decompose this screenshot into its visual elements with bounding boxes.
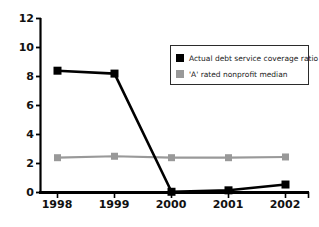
series-line-actual	[58, 71, 286, 192]
legend-item-actual: Actual debt service coverage ratio	[176, 50, 303, 66]
legend-swatch-actual-icon	[176, 54, 184, 62]
x-tick-label: 2001	[204, 198, 252, 211]
x-tick-label: 2002	[261, 198, 309, 211]
legend-swatch-median-icon	[176, 70, 184, 78]
data-point-marker	[282, 181, 290, 189]
data-point-marker	[111, 153, 118, 160]
data-point-marker	[168, 154, 175, 161]
x-tick-label: 1998	[33, 198, 81, 211]
data-point-marker	[282, 153, 289, 160]
legend-label-actual: Actual debt service coverage ratio	[189, 54, 318, 63]
data-point-marker	[168, 188, 176, 196]
line-chart: 12 10 8 6 4 2 0	[0, 0, 319, 227]
series-markers-actual	[54, 67, 290, 196]
data-point-marker	[54, 67, 62, 75]
legend-item-median: 'A' rated nonprofit median	[176, 66, 303, 82]
chart-legend: Actual debt service coverage ratio 'A' r…	[170, 45, 309, 85]
data-point-marker	[225, 186, 233, 194]
data-point-marker	[111, 70, 119, 78]
x-tick-label: 2000	[147, 198, 195, 211]
plot-canvas	[0, 0, 319, 227]
legend-label-median: 'A' rated nonprofit median	[189, 70, 288, 79]
data-point-marker	[225, 154, 232, 161]
x-axis: 1998 1999 2000 2001 2002	[0, 198, 319, 218]
x-tick-label: 1999	[90, 198, 138, 211]
data-point-marker	[54, 154, 61, 161]
